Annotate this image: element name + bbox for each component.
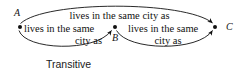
node-label-a: A [14, 8, 20, 18]
node-label-c: C [226, 22, 233, 32]
edge-label-a-to-b-line1: lives in the same [24, 23, 94, 34]
transitive-relation-diagram: A B C lives in the same city as lives in… [0, 0, 242, 74]
edge-label-b-to-c-line2: city as [128, 35, 208, 46]
edge-label-a-to-c: lives in the same city as [52, 10, 187, 21]
node-dot-a [18, 25, 22, 29]
node-label-b: B [112, 33, 118, 43]
edge-label-b-to-c-line1: lives in the same [128, 23, 198, 34]
node-dot-c [213, 25, 217, 29]
figure-caption: Transitive [46, 59, 91, 70]
edge-label-a-to-b-line2: city as [24, 35, 102, 46]
node-dot-b [113, 25, 117, 29]
